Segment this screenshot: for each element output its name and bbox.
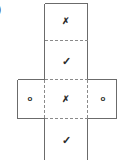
upper-middle-cell-symbol: ✓ xyxy=(59,56,73,67)
middle-left-cell-symbol: o xyxy=(23,95,37,103)
net-fold-lines xyxy=(45,41,88,119)
middle-center-cell-symbol: ✗ xyxy=(59,95,73,104)
bottom-cell-symbol: ✓ xyxy=(59,135,73,146)
middle-right-cell-symbol: o xyxy=(96,95,110,103)
top-cell-symbol: ✗ xyxy=(59,17,73,26)
